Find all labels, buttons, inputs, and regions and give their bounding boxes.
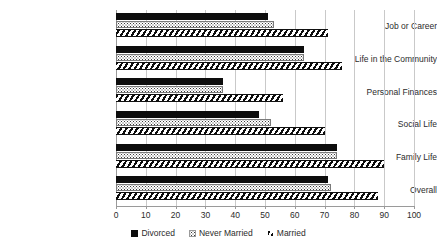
x-tick-mark xyxy=(116,206,117,209)
x-tick-mark xyxy=(205,206,206,209)
bar-never-married xyxy=(116,21,274,28)
bar-never-married xyxy=(116,86,223,93)
bar-married xyxy=(116,62,342,70)
legend-label: Married xyxy=(277,228,306,238)
legend-label: Divorced xyxy=(141,228,175,238)
x-tick-mark xyxy=(414,206,415,209)
x-tick-mark xyxy=(235,206,236,209)
gridline-100 xyxy=(414,10,415,206)
horizontal-bar-chart: Job or CareerLife in the CommunityPerson… xyxy=(0,0,437,250)
bar-group xyxy=(116,173,414,206)
bar-divorced xyxy=(116,111,259,118)
bar-married xyxy=(116,160,384,168)
hatched-square-icon xyxy=(267,230,274,237)
bar-never-married xyxy=(116,119,271,126)
bar-married xyxy=(116,192,378,200)
bar-group xyxy=(116,10,414,43)
plot-area xyxy=(116,10,414,206)
chart-legend: DivorcedNever MarriedMarried xyxy=(0,228,437,238)
bar-divorced xyxy=(116,144,337,151)
x-tick-mark xyxy=(176,206,177,209)
bar-group xyxy=(116,43,414,76)
legend-entry[interactable]: Divorced xyxy=(131,228,175,238)
x-tick-mark xyxy=(325,206,326,209)
bar-divorced xyxy=(116,78,223,85)
dotted-square-icon xyxy=(189,230,196,237)
bar-married xyxy=(116,127,325,135)
bar-divorced xyxy=(116,13,268,20)
x-tick-mark xyxy=(354,206,355,209)
bar-group xyxy=(116,75,414,108)
bar-married xyxy=(116,94,283,102)
x-tick-mark xyxy=(265,206,266,209)
x-tick-label: 100 xyxy=(394,210,434,221)
legend-entry[interactable]: Married xyxy=(267,228,306,238)
bar-group xyxy=(116,108,414,141)
bar-never-married xyxy=(116,152,337,159)
x-tick-mark xyxy=(295,206,296,209)
legend-label: Never Married xyxy=(199,228,253,238)
x-tick-mark xyxy=(146,206,147,209)
bar-group xyxy=(116,141,414,174)
x-tick-mark xyxy=(384,206,385,209)
bar-divorced xyxy=(116,176,328,183)
bar-divorced xyxy=(116,46,304,53)
bar-never-married xyxy=(116,184,331,191)
solid-square-icon xyxy=(131,230,138,237)
bar-never-married xyxy=(116,54,304,61)
legend-entry[interactable]: Never Married xyxy=(189,228,253,238)
bar-married xyxy=(116,29,328,37)
